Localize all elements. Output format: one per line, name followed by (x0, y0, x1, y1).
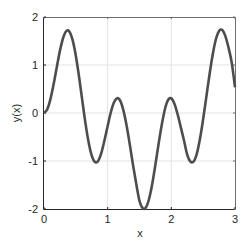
y-axis-label: y(x) (10, 104, 22, 122)
y-tick-label: 1 (32, 59, 38, 71)
line-chart: 0123 -2-1012 x y(x) (0, 0, 251, 248)
y-tick-label: -1 (28, 155, 38, 167)
x-tick-label: 3 (232, 213, 238, 225)
x-axis-label: x (137, 227, 143, 239)
x-tick-label: 1 (105, 213, 111, 225)
y-tick-label: -2 (28, 203, 38, 215)
x-tick-label: 0 (41, 213, 47, 225)
x-tick-label: 2 (168, 213, 174, 225)
y-tick-label: 0 (32, 107, 38, 119)
y-tick-label: 2 (32, 11, 38, 23)
